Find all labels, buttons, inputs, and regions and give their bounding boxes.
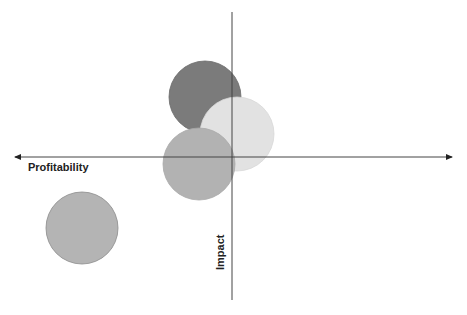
bubble-mid: [163, 128, 235, 200]
y-axis-label: Impact: [214, 235, 226, 270]
x-axis-label: Profitability: [28, 161, 89, 173]
quadrant-diagram: [0, 0, 467, 315]
bubble-bottom-left: [46, 192, 118, 264]
